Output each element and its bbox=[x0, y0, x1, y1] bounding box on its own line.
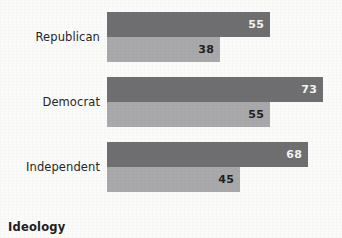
bar-group-independent: Independent 68 45 bbox=[0, 142, 342, 194]
chart-plot-area: Republican 55 38 Democrat 73 55 Independ… bbox=[0, 0, 342, 205]
bar-value-republican-series-1: 55 bbox=[248, 19, 264, 31]
category-label-independent: Independent bbox=[0, 161, 100, 174]
bar-independent-series-2: 45 bbox=[107, 167, 240, 192]
bar-group-republican: Republican 55 38 bbox=[0, 12, 342, 64]
bar-value-independent-series-2: 45 bbox=[218, 174, 234, 186]
category-label-democrat: Democrat bbox=[0, 96, 100, 109]
category-label-republican: Republican bbox=[0, 31, 100, 44]
bar-independent-series-1: 68 bbox=[107, 142, 308, 167]
bar-value-republican-series-2: 38 bbox=[198, 44, 214, 56]
bar-democrat-series-2: 55 bbox=[107, 102, 270, 127]
bar-value-democrat-series-1: 73 bbox=[301, 84, 317, 96]
bar-value-democrat-series-2: 55 bbox=[248, 109, 264, 121]
bar-democrat-series-1: 73 bbox=[107, 77, 323, 102]
bar-value-independent-series-1: 68 bbox=[286, 149, 302, 161]
bar-republican-series-1: 55 bbox=[107, 12, 270, 37]
bar-group-democrat: Democrat 73 55 bbox=[0, 77, 342, 129]
axis-title-ideology: Ideology bbox=[8, 220, 65, 234]
bar-republican-series-2: 38 bbox=[107, 37, 220, 62]
grouped-bar-chart: Republican 55 38 Democrat 73 55 Independ… bbox=[0, 0, 342, 238]
